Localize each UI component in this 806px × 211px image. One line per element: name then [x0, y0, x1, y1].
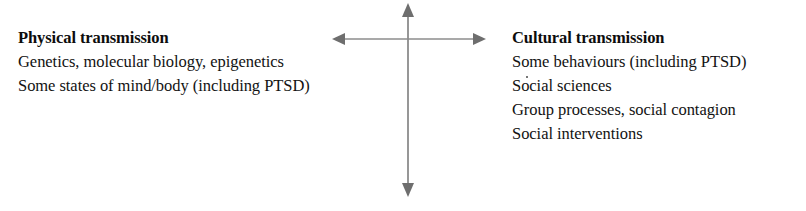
physical-transmission-line-2: Some states of mind/body (including PTSD… [18, 74, 310, 98]
cultural-transmission-column: Cultural transmission Some behaviours (i… [512, 26, 746, 146]
physical-transmission-heading: Physical transmission [18, 26, 310, 50]
cultural-transmission-line-3: Group processes, social contagion [512, 98, 746, 122]
arrow-left-icon [332, 33, 345, 45]
cultural-transmission-line-1-text: Some behaviours (including PTSD) [512, 52, 746, 71]
physical-transmission-column: Physical transmission Genetics, molecula… [18, 26, 310, 98]
cultural-transmission-line-2: Social sciences [512, 74, 746, 98]
cultural-transmission-line-1: Some behaviours (including PTSD) [512, 50, 746, 74]
cross-arrows-svg [326, 0, 492, 202]
cultural-transmission-line-4: Social interventions [512, 122, 746, 146]
arrow-up-icon [402, 3, 414, 17]
cross-double-arrows [326, 0, 492, 202]
physical-transmission-line-1: Genetics, molecular biology, epigenetics [18, 50, 310, 74]
arrow-down-icon [402, 183, 414, 197]
transmission-diagram: Physical transmission Genetics, molecula… [0, 0, 806, 211]
cultural-transmission-heading: Cultural transmission [512, 26, 746, 50]
arrow-right-icon [473, 33, 486, 45]
scan-speck [526, 76, 528, 78]
